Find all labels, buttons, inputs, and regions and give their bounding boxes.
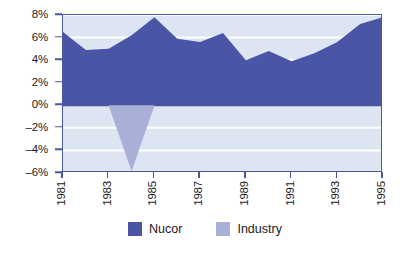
series-area-industry-negative [63, 105, 382, 170]
y-axis-tick-label: 0% [4, 98, 48, 110]
y-axis-tick-mark [55, 81, 62, 83]
plot-area [62, 14, 382, 172]
x-axis-tick-label: 1995 [375, 181, 387, 206]
legend-swatch-nucor [128, 222, 142, 236]
x-axis-tick-mark [244, 172, 246, 178]
x-axis-tick-mark [290, 172, 292, 178]
x-axis-tick-label: 1991 [284, 181, 296, 206]
y-axis-tick-mark [55, 104, 62, 106]
legend-swatch-industry [216, 222, 230, 236]
y-axis-tick-label: 8% [4, 8, 48, 20]
x-axis-tick-mark [61, 172, 63, 178]
x-axis-tick-label: 1989 [238, 181, 250, 206]
y-axis-tick-label: 4% [4, 53, 48, 65]
legend-item-industry: Industry [216, 222, 281, 236]
x-axis-tick-label: 1985 [146, 181, 158, 206]
y-axis-tick-mark [55, 149, 62, 151]
x-axis-tick-label: 1981 [55, 181, 67, 206]
x-axis-tick-mark [381, 172, 383, 178]
x-axis-tick-mark [107, 172, 109, 178]
x-axis-tick-mark [198, 172, 200, 178]
legend-item-nucor: Nucor [128, 222, 182, 236]
x-axis-tick-label: 1987 [192, 181, 204, 206]
x-axis-tick-mark [336, 172, 338, 178]
chart-legend: Nucor Industry [0, 222, 410, 236]
y-axis-tick-mark [55, 13, 62, 15]
x-axis-tick-label: 1983 [101, 181, 113, 206]
y-axis-tick-label: –6% [4, 166, 48, 178]
y-axis-tick-mark [55, 36, 62, 38]
y-axis-tick-mark [55, 58, 62, 60]
x-axis-tick-label: 1993 [329, 181, 341, 206]
series-area-nucor [63, 17, 382, 105]
y-axis-tick-label: 2% [4, 76, 48, 88]
legend-label-nucor: Nucor [149, 222, 182, 236]
x-axis-tick-mark [153, 172, 155, 178]
chart-figure: Nucor Industry 8%6%4%2%0%–2%–4%–6%198119… [0, 0, 410, 255]
area-chart-svg [63, 15, 382, 172]
y-axis-tick-label: –4% [4, 143, 48, 155]
y-axis-tick-label: 6% [4, 31, 48, 43]
y-axis-tick-mark [55, 126, 62, 128]
legend-label-industry: Industry [237, 222, 281, 236]
y-axis-tick-label: –2% [4, 121, 48, 133]
